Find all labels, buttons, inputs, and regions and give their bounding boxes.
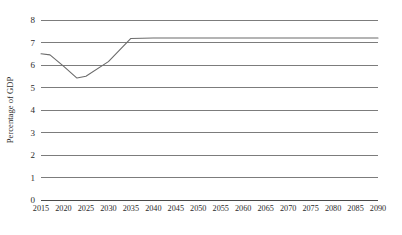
y-axis-tick-label: 8 — [31, 15, 36, 25]
x-axis-tick-label: 2040 — [145, 204, 161, 213]
x-axis-tick-label: 2055 — [213, 204, 229, 213]
x-axis-tick-label: 2035 — [123, 204, 139, 213]
x-axis-tick-label: 2085 — [347, 204, 363, 213]
x-axis-tick-label: 2065 — [257, 204, 273, 213]
y-axis-tick-label: 4 — [31, 105, 36, 115]
x-axis-tick-labels: 2015202020252030203520402045205020552060… — [33, 204, 386, 213]
x-axis-tick-label: 2075 — [302, 204, 318, 213]
x-axis-tick-label: 2030 — [100, 204, 116, 213]
data-series — [41, 38, 378, 78]
y-axis-tick-label: 1 — [31, 173, 36, 183]
x-axis-tick-label: 2090 — [370, 204, 386, 213]
x-axis-tick-label: 2060 — [235, 204, 251, 213]
chart-container: 012345678 201520202025203020352040204520… — [0, 0, 402, 235]
x-axis-tick-label: 2080 — [325, 204, 341, 213]
y-axis-tick-label: 6 — [31, 60, 36, 70]
y-axis-tick-label: 2 — [31, 150, 36, 160]
y-axis-tick-label: 5 — [31, 83, 36, 93]
x-axis-tick-label: 2045 — [168, 204, 184, 213]
line-chart: 012345678 201520202025203020352040204520… — [0, 0, 402, 235]
y-axis-title: Percentage of GDP — [5, 77, 15, 144]
x-axis-tick-label: 2020 — [55, 204, 71, 213]
x-axis-tick-label: 2050 — [190, 204, 206, 213]
x-axis-tick-label: 2015 — [33, 204, 49, 213]
y-axis-tick-labels: 012345678 — [31, 15, 36, 205]
y-axis-tick-label: 7 — [31, 38, 36, 48]
y-axis-tick-label: 3 — [31, 128, 36, 138]
x-axis-tick-label: 2070 — [280, 204, 296, 213]
series-line — [41, 38, 378, 78]
x-axis-tick-label: 2025 — [78, 204, 94, 213]
gridlines — [41, 20, 378, 200]
